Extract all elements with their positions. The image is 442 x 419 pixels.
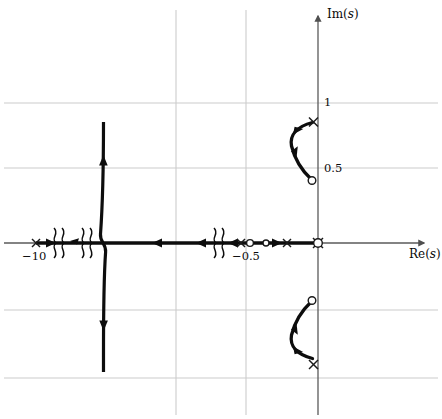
locus-arrow-left-4 (228, 239, 238, 248)
root-locus-canvas (0, 0, 442, 419)
root-locus-figure: Im(s) Re(s) 1 0.5 −0.5 −10 (0, 0, 442, 419)
axes (4, 16, 424, 415)
zero-marker-re-neg0p45 (247, 240, 254, 247)
branch-upper-complex (291, 123, 313, 180)
zero-marker-lower-complex (308, 297, 316, 305)
tick-label-im-1: 1 (324, 97, 331, 109)
tick-label-re-neg10: −10 (22, 251, 46, 263)
locus-arrow-up (99, 155, 108, 166)
gridlines-vertical (176, 10, 246, 415)
locus-arrow-right-1 (272, 239, 282, 248)
zero-marker-upper-complex (308, 177, 316, 185)
real-axis-label: Re(s) (409, 248, 441, 260)
locus-arrow-left-2 (152, 239, 162, 248)
tick-label-im-0p5: 0.5 (324, 163, 342, 175)
pole-marker-lower-complex (309, 360, 318, 369)
tick-label-re-neg0p5: −0.5 (232, 251, 260, 263)
zero-marker-re-neg0p25 (263, 240, 269, 246)
imaginary-axis-label: Im(s) (327, 8, 359, 20)
locus-arrow-left-3 (196, 239, 206, 248)
gridlines-horizontal (4, 103, 438, 378)
zero-marker-origin (314, 239, 323, 248)
locus-arrow-down (99, 321, 108, 332)
